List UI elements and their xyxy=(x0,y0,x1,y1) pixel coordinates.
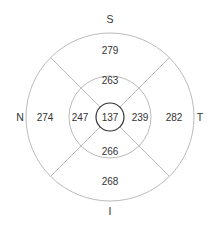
inner-inferior-value: 266 xyxy=(102,146,119,157)
outer-superior-value: 279 xyxy=(102,45,119,56)
outer-inferior-value: 268 xyxy=(102,176,119,187)
temporal-label: T xyxy=(197,111,204,123)
superior-label: S xyxy=(106,13,113,25)
thickness-map: S I N T 137 263 247 239 266 279 274 282 … xyxy=(0,0,216,231)
nasal-label: N xyxy=(16,111,24,123)
center-value: 137 xyxy=(102,112,119,123)
inner-nasal-value: 247 xyxy=(72,112,89,123)
outer-nasal-value: 274 xyxy=(37,112,54,123)
inner-temporal-value: 239 xyxy=(132,112,149,123)
inner-superior-value: 263 xyxy=(102,75,119,86)
outer-temporal-value: 282 xyxy=(166,112,183,123)
inferior-label: I xyxy=(109,205,112,217)
